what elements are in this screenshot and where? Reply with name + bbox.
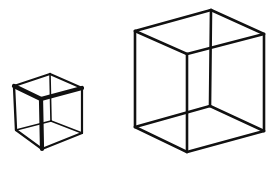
cube-edge-tb-bb	[50, 74, 51, 121]
cube-edge-bl-bb	[16, 121, 51, 130]
cube-edge-tb-tl	[135, 10, 211, 31]
cube-edge-tl-tf	[135, 31, 187, 54]
cube-edge-bf-br	[42, 133, 82, 149]
cube-edge-tb-bb	[210, 10, 211, 106]
cube-edge-bl-bb	[135, 106, 210, 127]
necker-cubes-figure	[0, 0, 278, 169]
large-wireframe-cube	[135, 10, 264, 152]
cube-edge-tl-bl	[14, 86, 16, 130]
cube-edge-bf-br	[187, 131, 264, 152]
cube-edge-tf-tr	[41, 88, 82, 99]
cube-edge-bl-bf	[135, 127, 187, 152]
cube-edge-tb-tl	[14, 74, 50, 86]
diagram-canvas	[0, 0, 278, 169]
cube-edge-bb-br	[51, 121, 82, 133]
cube-edge-tb-tr	[211, 10, 264, 34]
cube-edge-tb-tr	[50, 74, 82, 88]
small-wireframe-cube	[14, 74, 82, 149]
cube-edge-bb-br	[210, 106, 264, 131]
cube-edge-tf-tr	[187, 34, 264, 54]
cube-edge-tl-tf	[14, 86, 41, 99]
cube-edge-bl-bf	[16, 130, 42, 149]
